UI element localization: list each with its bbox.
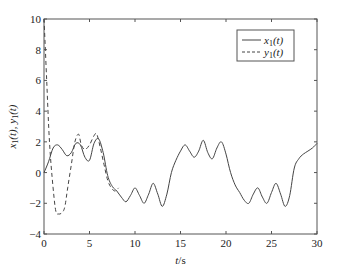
series-y1-line — [44, 19, 119, 214]
y-tick-label: 4 — [36, 105, 42, 117]
x-tick-label: 10 — [130, 237, 142, 249]
x-tick-label: 0 — [41, 237, 47, 249]
x-axis-label: t/s — [175, 254, 185, 266]
y-tick-label: 0 — [36, 167, 42, 179]
y-tick-label: 10 — [30, 13, 42, 25]
line-chart: 051015202530−4−20246810 x1(t)y1(t) t/sx1… — [0, 0, 339, 273]
y-tick-label: 6 — [36, 74, 42, 86]
y-tick-label: −2 — [29, 197, 41, 209]
x-tick-label: 5 — [87, 237, 93, 249]
x-tick-label: 30 — [312, 237, 324, 249]
series-x1-line — [44, 138, 317, 206]
y-tick-label: 8 — [36, 44, 42, 56]
axis-labels: t/sx1(t), y1(t) — [6, 104, 186, 266]
y-tick-label: 2 — [36, 136, 42, 148]
legend: x1(t)y1(t) — [237, 30, 294, 61]
legend-label: y1(t) — [263, 46, 284, 60]
y-tick-label: −4 — [29, 228, 41, 240]
x-tick-label: 15 — [175, 237, 187, 249]
x-tick-label: 25 — [266, 237, 278, 249]
x-tick-label: 20 — [221, 237, 233, 249]
y-axis-label: x1(t), y1(t) — [6, 104, 20, 149]
